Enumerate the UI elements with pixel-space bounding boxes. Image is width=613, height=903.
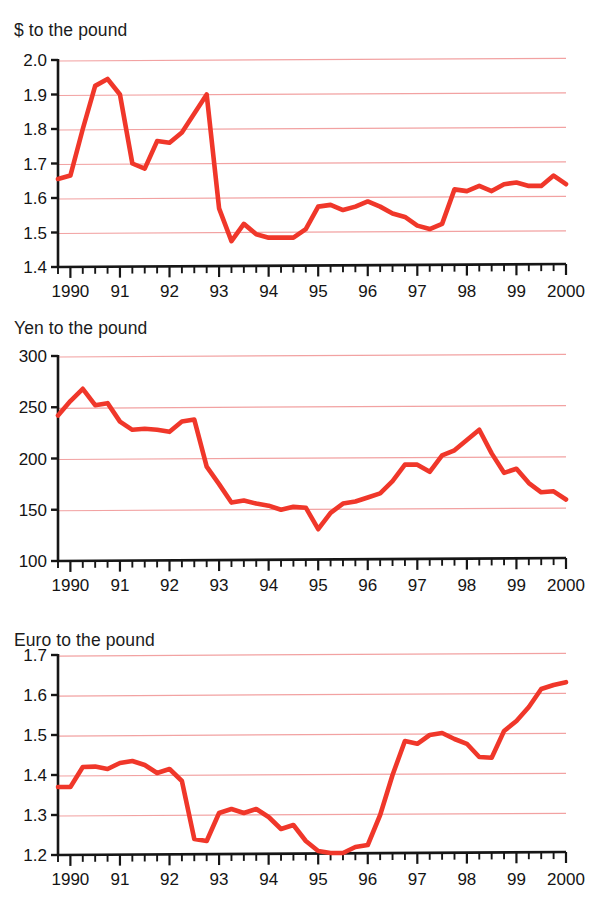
svg-text:1.6: 1.6 [23, 686, 47, 705]
svg-text:98: 98 [457, 870, 476, 889]
x-axis [57, 558, 566, 572]
svg-text:96: 96 [358, 576, 377, 595]
svg-text:94: 94 [259, 576, 278, 595]
gridlines [58, 653, 566, 816]
chart-panel-yen: Yen to the pound 10015020025030019909192… [0, 310, 613, 620]
svg-text:97: 97 [408, 282, 427, 301]
svg-text:99: 99 [507, 282, 526, 301]
svg-text:1.9: 1.9 [23, 86, 47, 105]
svg-text:92: 92 [160, 870, 179, 889]
svg-text:150: 150 [19, 501, 47, 520]
svg-text:94: 94 [259, 282, 278, 301]
svg-text:91: 91 [110, 870, 129, 889]
y-axis-tick-labels: 1.41.51.61.71.81.92.0 [23, 51, 47, 277]
svg-text:1.5: 1.5 [23, 726, 47, 745]
x-axis [57, 264, 566, 278]
svg-text:250: 250 [19, 398, 47, 417]
y-axis-tick-labels: 100150200250300 [19, 347, 47, 571]
gridlines [58, 354, 566, 510]
svg-text:1.8: 1.8 [23, 120, 47, 139]
svg-text:1.7: 1.7 [23, 155, 47, 174]
svg-text:1.4: 1.4 [23, 258, 47, 277]
svg-text:2000: 2000 [547, 576, 585, 595]
svg-text:200: 200 [19, 450, 47, 469]
svg-text:99: 99 [507, 870, 526, 889]
svg-text:95: 95 [309, 576, 328, 595]
svg-text:96: 96 [358, 870, 377, 889]
svg-text:95: 95 [309, 870, 328, 889]
chart-plot-euro: 1.21.31.41.51.61.71990919293949596979899… [0, 620, 613, 903]
svg-text:98: 98 [457, 576, 476, 595]
svg-text:300: 300 [19, 347, 47, 366]
svg-text:98: 98 [457, 282, 476, 301]
chart-panel-euro: Euro to the pound 1.21.31.41.51.61.71990… [0, 620, 613, 903]
svg-text:1990: 1990 [51, 576, 89, 595]
data-series-line [58, 79, 566, 241]
y-axis [51, 355, 58, 562]
x-axis-tick-labels: 19909192939495969798992000 [51, 282, 584, 301]
svg-text:1.2: 1.2 [23, 846, 47, 865]
x-axis [57, 852, 566, 866]
y-axis [51, 654, 58, 856]
x-axis-tick-labels: 19909192939495969798992000 [51, 870, 584, 889]
svg-text:1.7: 1.7 [23, 646, 47, 665]
svg-text:94: 94 [259, 870, 278, 889]
svg-text:91: 91 [110, 282, 129, 301]
svg-text:2000: 2000 [547, 870, 585, 889]
chart-plot-yen: 1001502002503001990919293949596979899200… [0, 310, 613, 620]
svg-text:2000: 2000 [547, 282, 585, 301]
svg-text:99: 99 [507, 576, 526, 595]
svg-text:97: 97 [408, 870, 427, 889]
svg-text:1.4: 1.4 [23, 766, 47, 785]
svg-text:93: 93 [210, 282, 229, 301]
gridlines [58, 58, 566, 233]
svg-text:96: 96 [358, 282, 377, 301]
svg-text:100: 100 [19, 552, 47, 571]
svg-text:1.3: 1.3 [23, 806, 47, 825]
svg-text:1.5: 1.5 [23, 224, 47, 243]
svg-text:92: 92 [160, 282, 179, 301]
svg-text:1990: 1990 [51, 282, 89, 301]
chart-plot-dollar: 1.41.51.61.71.81.92.01990919293949596979… [0, 0, 613, 310]
x-axis-tick-labels: 19909192939495969798992000 [51, 576, 584, 595]
svg-text:93: 93 [210, 576, 229, 595]
svg-text:92: 92 [160, 576, 179, 595]
svg-text:91: 91 [110, 576, 129, 595]
svg-text:2.0: 2.0 [23, 51, 47, 70]
y-axis-tick-labels: 1.21.31.41.51.61.7 [23, 646, 47, 865]
svg-text:93: 93 [210, 870, 229, 889]
chart-panel-dollar: $ to the pound 1.41.51.61.71.81.92.01990… [0, 0, 613, 310]
y-axis [51, 59, 58, 268]
svg-text:97: 97 [408, 576, 427, 595]
svg-text:95: 95 [309, 282, 328, 301]
svg-text:1990: 1990 [51, 870, 89, 889]
svg-text:1.6: 1.6 [23, 189, 47, 208]
data-series-line [58, 682, 566, 853]
